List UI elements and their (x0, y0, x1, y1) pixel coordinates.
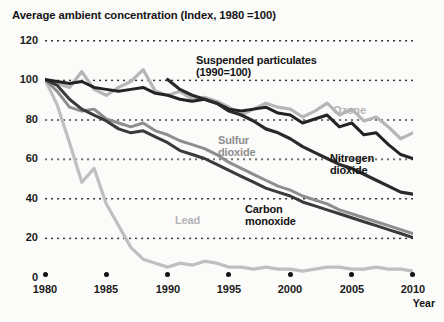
x-tick-dot-1995 (226, 272, 231, 277)
x-tick-dot-1985 (104, 272, 109, 277)
y-tick-20: 20 (8, 232, 38, 243)
x-tick-1985: 1985 (83, 284, 129, 295)
suspended-label-line1: Suspended particulates (196, 54, 317, 66)
x-tick-2005: 2005 (329, 284, 375, 295)
series-label-suspended-particulates: Suspended particulates (1990=100) (196, 54, 317, 79)
y-tick-60: 60 (8, 153, 38, 164)
series-label-carbon-monoxide: Carbon monoxide (245, 203, 296, 228)
sulfur-label-line2: dioxide (218, 146, 255, 158)
x-tick-dot-2010 (410, 272, 415, 277)
series-label-sulfur-dioxide: Sulfur dioxide (218, 134, 255, 159)
x-tick-2010: 2010 (390, 284, 436, 295)
sulfur-label-line1: Sulfur (218, 134, 255, 146)
suspended-label-line2: (1990=100) (196, 66, 317, 78)
x-tick-1980: 1980 (22, 284, 68, 295)
chart-container: Average ambient concentration (Index, 19… (0, 0, 444, 322)
x-tick-dot-2000 (288, 272, 293, 277)
x-tick-dot-1990 (165, 272, 170, 277)
nitrogen-label-line2: dioxide (330, 164, 374, 176)
y-tick-100: 100 (8, 74, 38, 85)
x-tick-dot-1980 (43, 272, 48, 277)
carbon-label-line1: Carbon (245, 203, 296, 215)
y-tick-80: 80 (8, 114, 38, 125)
y-tick-120: 120 (8, 35, 38, 46)
series-label-lead: Lead (175, 214, 200, 226)
x-tick-dot-2005 (349, 272, 354, 277)
y-tick-0: 0 (8, 272, 38, 283)
y-tick-40: 40 (8, 193, 38, 204)
carbon-label-line2: monoxide (245, 215, 296, 227)
chart-title: Average ambient concentration (Index, 19… (12, 9, 276, 21)
x-tick-2000: 2000 (267, 284, 313, 295)
x-axis-label: Year (413, 297, 435, 309)
nitrogen-label-line1: Nitrogen (330, 152, 374, 164)
series-label-nitrogen-dioxide: Nitrogen dioxide (330, 152, 374, 177)
x-tick-1995: 1995 (206, 284, 252, 295)
series-label-ozone: Ozone (333, 104, 366, 116)
x-tick-1990: 1990 (145, 284, 191, 295)
